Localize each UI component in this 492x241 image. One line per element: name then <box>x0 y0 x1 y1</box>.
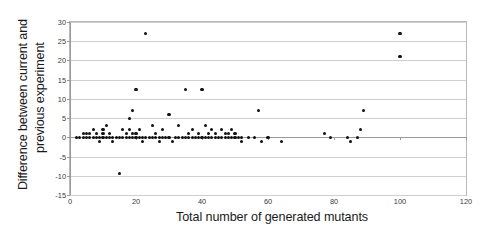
y-tick-label: -10 <box>55 171 66 180</box>
x-axis-title: Total number of generated mutants <box>62 210 482 224</box>
y-tick-label: -5 <box>59 152 66 161</box>
data-point <box>151 124 154 127</box>
y-tick-label: 15 <box>58 75 66 84</box>
y-tick-label: 5 <box>62 114 66 123</box>
data-point <box>240 136 243 139</box>
data-point <box>95 132 98 135</box>
data-point <box>134 88 137 91</box>
data-point <box>158 140 161 143</box>
data-point <box>233 132 236 135</box>
x-tick-label: 60 <box>264 197 272 206</box>
data-point <box>184 88 187 91</box>
scatter-chart-figure: Difference between current and previous … <box>0 0 492 241</box>
data-point <box>362 109 365 112</box>
data-point <box>240 140 243 143</box>
data-point <box>187 136 190 139</box>
data-point <box>197 132 200 135</box>
data-point <box>154 136 157 139</box>
data-point <box>101 132 104 135</box>
data-point <box>187 132 190 135</box>
x-tick-label: 0 <box>68 197 72 206</box>
data-point <box>111 140 114 143</box>
x-tick-label: 20 <box>132 197 140 206</box>
data-point <box>398 55 401 58</box>
data-point <box>323 132 326 135</box>
data-point <box>356 136 359 139</box>
data-point <box>167 136 170 139</box>
y-tick-mark <box>67 195 70 196</box>
data-point <box>88 132 91 135</box>
data-point <box>220 128 223 131</box>
data-point <box>141 140 144 143</box>
y-tick-label: -15 <box>55 191 66 200</box>
data-point <box>257 109 260 112</box>
data-point <box>230 128 233 131</box>
data-point <box>171 140 174 143</box>
data-point <box>177 124 180 127</box>
y-tick-label: 10 <box>58 94 66 103</box>
data-point <box>131 109 134 112</box>
data-point <box>121 136 124 139</box>
data-point <box>138 128 141 131</box>
data-point <box>247 136 250 139</box>
data-point <box>128 128 131 131</box>
y-tick-label: 30 <box>58 18 66 27</box>
data-point <box>125 132 128 135</box>
data-point <box>118 172 121 175</box>
y-axis-title-line-1: Difference between current and <box>14 20 31 191</box>
data-point <box>214 132 217 135</box>
x-tick-label: 40 <box>198 197 206 206</box>
data-point <box>207 132 210 135</box>
y-axis-title: Difference between current and previous … <box>0 0 62 210</box>
data-point <box>398 32 401 35</box>
data-point <box>329 136 332 139</box>
x-tick-mark <box>466 137 467 140</box>
data-point <box>128 117 131 120</box>
data-point <box>121 128 124 131</box>
data-point <box>191 128 194 131</box>
data-point <box>227 132 230 135</box>
x-tick-label: 120 <box>460 197 472 206</box>
data-point <box>359 128 362 131</box>
data-point <box>253 136 256 139</box>
x-tick-label: 100 <box>394 197 406 206</box>
gridline <box>70 195 466 196</box>
data-point <box>88 136 91 139</box>
y-axis-title-line-2: previous experiment <box>31 20 48 191</box>
data-point <box>260 140 263 143</box>
y-tick-label: 0 <box>62 133 66 142</box>
data-points-layer <box>70 22 466 195</box>
data-point <box>154 132 157 135</box>
data-point <box>105 124 108 127</box>
data-point <box>346 136 349 139</box>
data-point <box>98 140 101 143</box>
data-point <box>134 132 137 135</box>
data-point <box>349 140 352 143</box>
data-point <box>210 128 213 131</box>
data-point <box>200 88 203 91</box>
data-point <box>220 136 223 139</box>
data-point <box>266 136 269 139</box>
data-point <box>92 128 95 131</box>
data-point <box>161 128 164 131</box>
data-point <box>280 140 283 143</box>
data-point <box>101 128 104 131</box>
data-point <box>144 32 147 35</box>
y-tick-label: 25 <box>58 37 66 46</box>
data-point <box>204 124 207 127</box>
data-point <box>167 113 170 116</box>
plot-area: 302520151050-5-10-15 020406080100120 <box>69 21 467 196</box>
data-point <box>108 132 111 135</box>
y-tick-label: 20 <box>58 56 66 65</box>
x-tick-label: 80 <box>330 197 338 206</box>
